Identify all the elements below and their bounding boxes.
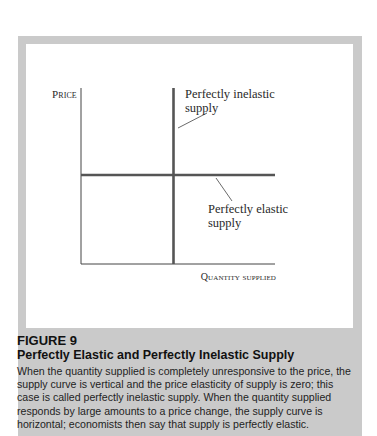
elastic-annotation-line2: supply	[208, 216, 288, 230]
elastic-annotation-line1: Perfectly elastic	[208, 202, 288, 216]
figure-title: Perfectly Elastic and Perfectly Inelasti…	[17, 348, 357, 363]
inelastic-annotation-line2: supply	[185, 101, 275, 115]
figure-caption: FIGURE 9 Perfectly Elastic and Perfectly…	[17, 333, 357, 431]
y-axis-label: Price	[52, 87, 77, 101]
figure-description: When the quantity supplied is completely…	[17, 365, 357, 431]
elastic-annotation: Perfectly elastic supply	[208, 202, 288, 230]
inelastic-annotation: Perfectly inelastic supply	[185, 87, 275, 115]
figure-number: FIGURE 9	[17, 333, 357, 348]
inelastic-leader-line	[178, 113, 207, 128]
elastic-leader-line	[216, 178, 232, 201]
x-axis-label: Quantity supplied	[196, 270, 276, 284]
inelastic-annotation-line1: Perfectly inelastic	[185, 87, 275, 101]
